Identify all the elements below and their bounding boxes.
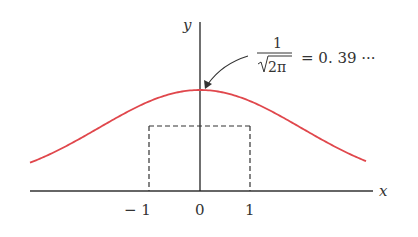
annotation-numerator: 1 — [273, 35, 282, 51]
annotation-denominator: 2π — [268, 59, 286, 75]
tick-neg1: − 1 — [124, 201, 151, 219]
chart-svg: y x − 1 0 1 1 2π = 0. 39 ··· — [0, 0, 418, 237]
y-axis-label: y — [182, 16, 192, 34]
normal-distribution-chart: y x − 1 0 1 1 2π = 0. 39 ··· — [0, 0, 418, 237]
tick-1: 1 — [245, 201, 255, 219]
tick-0: 0 — [195, 201, 205, 219]
annotation-arrow — [208, 56, 248, 84]
x-axis-label: x — [379, 182, 388, 200]
arrow-head-icon — [204, 80, 212, 89]
annotation-value: = 0. 39 ··· — [301, 49, 376, 67]
